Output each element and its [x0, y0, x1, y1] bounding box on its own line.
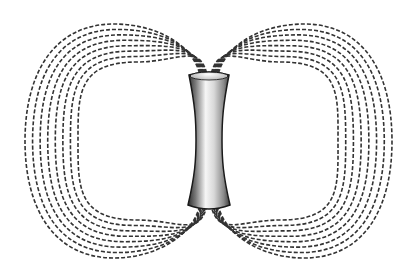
field-line	[55, 46, 203, 237]
magnet-top-cap	[190, 72, 228, 80]
magnet	[188, 72, 230, 209]
magnetic-field-diagram	[0, 0, 416, 278]
field-line	[63, 50, 205, 231]
field-line	[212, 54, 345, 228]
field-line	[211, 56, 338, 225]
field-line	[70, 54, 205, 228]
field-line	[78, 56, 207, 225]
field-line	[214, 46, 361, 237]
field-lines-left	[25, 24, 207, 258]
field-lines-right	[211, 24, 392, 258]
field-line	[213, 50, 353, 231]
magnet-body	[188, 72, 230, 209]
